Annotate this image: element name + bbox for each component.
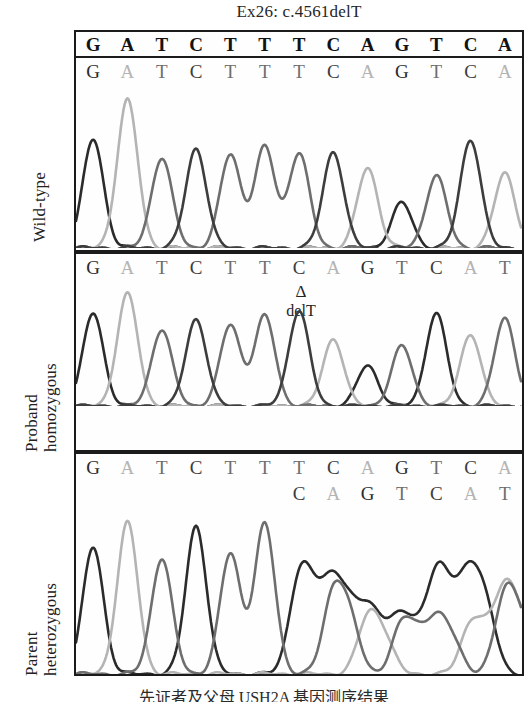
base-letter-a: A: [498, 35, 512, 54]
chromatogram-panel-parent-heterozygous: GATCTTTCAGTCACAGTCAT: [74, 452, 524, 676]
panel-label-proband-homozygous: Probandhomozygous: [22, 363, 60, 452]
figure-caption: 先证者及父母 USH2A 基因测序结果: [0, 684, 528, 702]
called-sequence-row: GATCTTTCAGTCA: [76, 58, 522, 84]
base-letter-t: T: [396, 258, 408, 277]
trace-a-channel: [76, 98, 521, 248]
base-letter-c: C: [327, 458, 340, 477]
panel-label-line: Proband: [22, 363, 41, 452]
base-letter-g: G: [395, 458, 409, 477]
base-letter-t: T: [430, 62, 442, 81]
base-letter-g: G: [86, 258, 100, 277]
base-letter-t: T: [156, 458, 168, 477]
chromatogram-trace: [76, 280, 522, 406]
panel-label-line: homozygous: [41, 363, 60, 452]
base-letter-c: C: [190, 258, 203, 277]
base-letter-t: T: [225, 62, 237, 81]
base-letter-t: T: [155, 35, 168, 54]
panel-label-parent-heterozygous: Parentheterozygous: [22, 583, 60, 676]
base-letter-a: A: [464, 484, 478, 503]
base-letter-a: A: [361, 35, 375, 54]
base-letter-c: C: [189, 35, 203, 54]
base-letter-t: T: [259, 258, 271, 277]
base-letter-t: T: [293, 62, 305, 81]
base-letter-c: C: [464, 458, 477, 477]
base-letter-t: T: [225, 258, 237, 277]
base-letter-t: T: [224, 35, 237, 54]
base-letter-c: C: [293, 484, 306, 503]
base-letter-c: C: [190, 458, 203, 477]
trace-area: [76, 84, 522, 248]
base-letter-t: T: [225, 458, 237, 477]
chromatogram-panel-proband-homozygous: GATCTTCAGTCATΔdelT: [74, 252, 524, 452]
called-sequence-row: GATCTTTCAGTCA: [76, 454, 522, 480]
base-letter-c: C: [327, 62, 340, 81]
base-letter-t: T: [430, 458, 442, 477]
sequencing-figure: Ex26: c.4561delT Wild-type Probandhomozy…: [0, 0, 528, 702]
base-letter-a: A: [121, 258, 135, 277]
reference-sequence-row: GATCTTTCAGTCA: [76, 32, 522, 58]
called-sequence-row: GATCTTCAGTCAT: [76, 254, 522, 280]
trace-area: [76, 506, 522, 674]
base-letter-a: A: [121, 458, 135, 477]
base-letter-t: T: [293, 458, 305, 477]
base-letter-a: A: [121, 62, 135, 81]
base-letter-g: G: [86, 35, 101, 54]
base-letter-t: T: [499, 258, 511, 277]
base-letter-a: A: [361, 62, 375, 81]
base-letter-a: A: [498, 62, 512, 81]
base-letter-g: G: [86, 62, 100, 81]
base-letter-t: T: [258, 35, 271, 54]
panel-label-line: heterozygous: [41, 583, 60, 676]
trace-t-channel: [76, 522, 521, 674]
base-letter-a: A: [121, 35, 135, 54]
figure-title: Ex26: c.4561delT: [74, 2, 524, 22]
panel-label-line: Wild-type: [30, 172, 50, 242]
base-letter-c: C: [190, 62, 203, 81]
base-letter-t: T: [430, 35, 443, 54]
secondary-sequence-row: CAGTCAT: [76, 480, 522, 506]
chromatogram-panel-wild-type: GATCTTTCAGTCAGATCTTTCAGTCA: [74, 30, 524, 252]
base-letter-g: G: [395, 62, 409, 81]
base-letter-a: A: [326, 258, 340, 277]
chromatogram-trace: [76, 506, 522, 674]
base-letter-c: C: [430, 258, 443, 277]
base-letter-g: G: [395, 35, 410, 54]
trace-area: [76, 280, 522, 406]
base-letter-c: C: [293, 258, 306, 277]
chromatogram-trace: [76, 84, 522, 248]
base-letter-c: C: [464, 35, 478, 54]
base-letter-g: G: [361, 258, 375, 277]
base-letter-a: A: [498, 458, 512, 477]
base-letter-t: T: [259, 62, 271, 81]
panel-label-line: Parent: [22, 583, 41, 676]
base-letter-a: A: [361, 458, 375, 477]
trace-t-channel: [76, 314, 521, 406]
base-letter-t: T: [499, 484, 511, 503]
base-letter-a: A: [326, 484, 340, 503]
base-letter-t: T: [293, 35, 306, 54]
base-letter-c: C: [464, 62, 477, 81]
base-letter-t: T: [156, 62, 168, 81]
base-letter-c: C: [430, 484, 443, 503]
base-letter-g: G: [86, 458, 100, 477]
base-letter-t: T: [396, 484, 408, 503]
base-letter-t: T: [156, 258, 168, 277]
base-letter-g: G: [361, 484, 375, 503]
base-letter-a: A: [464, 258, 478, 277]
base-letter-t: T: [259, 458, 271, 477]
base-letter-c: C: [326, 35, 340, 54]
panel-label-wild-type: Wild-type: [30, 172, 50, 242]
